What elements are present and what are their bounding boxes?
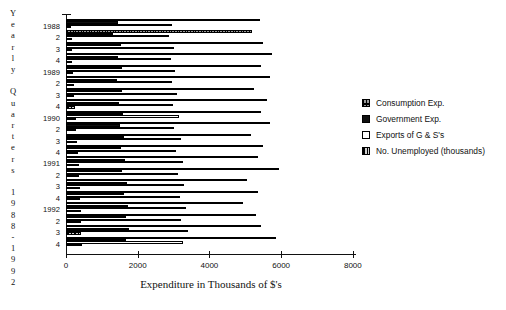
y-axis-tick-label: 3: [26, 138, 60, 146]
y-axis-title-letter: t: [2, 131, 24, 142]
bar-unemployed: [66, 38, 72, 40]
bar-unemployed: [66, 164, 79, 166]
bar-unemployed: [66, 118, 76, 120]
y-axis-tick-label: 1989: [26, 69, 60, 77]
y-axis-tick-label: 3: [26, 46, 60, 54]
bar-exports: [66, 127, 174, 129]
y-axis-title-letter: 2: [2, 277, 24, 288]
y-axis-title-letter: 8: [2, 210, 24, 221]
bar-exports: [66, 24, 172, 26]
bar-unemployed: [66, 49, 72, 51]
bar-chart: Yearly Quarters 1988-1992 19882341989234…: [0, 0, 506, 310]
x-axis-line: [66, 254, 356, 255]
bar-unemployed: [66, 244, 82, 246]
legend-swatch-exports-icon: [362, 131, 370, 139]
y-axis-tick-labels: 19882341989234199023419912341992234: [26, 19, 60, 251]
bar-group: [66, 53, 355, 64]
y-axis-title-letter: y: [2, 64, 24, 75]
bar-exports: [66, 241, 183, 243]
y-axis-tick-label: 1988: [26, 23, 60, 31]
y-axis-tick-label: 1990: [26, 115, 60, 123]
legend-swatch-consumption-icon: [362, 99, 370, 107]
y-axis-tick-label: 4: [26, 57, 60, 65]
bar-exports: [66, 150, 176, 152]
bar-group: [66, 168, 355, 179]
x-axis-tick: [281, 251, 282, 258]
legend-item-label: Government Exp.: [376, 114, 441, 124]
bar-exports: [66, 196, 180, 198]
y-axis-tick-label: 2: [26, 172, 60, 180]
bar-group: [66, 237, 355, 248]
bar-group: [66, 122, 355, 133]
y-axis-title-letter: 9: [2, 266, 24, 277]
y-axis-title-letter: Y: [2, 8, 24, 19]
bar-unemployed: [66, 152, 78, 154]
bar-exports: [66, 161, 183, 163]
bar-group: [66, 30, 355, 41]
y-axis-title-letter: 9: [2, 254, 24, 265]
legend-swatch-government-icon: [362, 115, 370, 123]
y-axis-title-letter: e: [2, 19, 24, 30]
bar-unemployed: [66, 84, 74, 86]
y-axis-tick-label: 2: [26, 34, 60, 42]
legend-item-label: No. Unemployed (thousands): [376, 146, 485, 156]
legend-item[interactable]: Consumption Exp.: [362, 95, 506, 111]
y-axis-tick-label: 2: [26, 80, 60, 88]
legend-item[interactable]: Government Exp.: [362, 111, 506, 127]
x-axis-tick-label: 6000: [272, 261, 290, 270]
x-axis-tick-label: 2000: [129, 261, 147, 270]
legend-item-label: Consumption Exp.: [376, 98, 444, 108]
y-axis-tick-label: 4: [26, 195, 60, 203]
bar-exports: [66, 219, 181, 221]
y-axis-title-letter: r: [2, 42, 24, 53]
y-axis-title-letter: a: [2, 30, 24, 41]
bar-exports: [66, 138, 181, 140]
y-axis-title-letter: s: [2, 165, 24, 176]
bar-group: [66, 202, 355, 213]
bar-unemployed: [66, 129, 76, 131]
bar-group: [66, 99, 355, 110]
y-axis-tick-label: 4: [26, 149, 60, 157]
bar-exports: [66, 230, 188, 232]
legend-swatch-unemployed-icon: [362, 147, 370, 155]
y-axis-title-letter: a: [2, 109, 24, 120]
y-axis-title-letter: e: [2, 142, 24, 153]
x-axis-tick: [138, 251, 139, 258]
bar-group: [66, 179, 355, 190]
legend-item-label: Exports of G & S's: [376, 130, 444, 140]
bar-group: [66, 225, 355, 236]
bar-exports: [66, 81, 172, 83]
bar-unemployed: [66, 106, 75, 108]
bar-unemployed: [66, 198, 80, 200]
y-axis-title-letter: [2, 75, 24, 86]
x-axis-tick: [353, 251, 354, 258]
bar-exports: [66, 115, 179, 117]
y-axis-tick-label: 2: [26, 126, 60, 134]
y-axis-title-letter: l: [2, 53, 24, 64]
legend-item[interactable]: Exports of G & S's: [362, 127, 506, 143]
bar-group: [66, 76, 355, 87]
y-axis-tick-label: 1992: [26, 206, 60, 214]
bar-group: [66, 145, 355, 156]
y-axis-top-cap: [62, 14, 71, 15]
y-axis-tick-label: 3: [26, 229, 60, 237]
y-axis-tick-label: 3: [26, 183, 60, 191]
legend-item[interactable]: No. Unemployed (thousands): [362, 143, 506, 159]
bar-group: [66, 214, 355, 225]
x-axis-tick-label: 4000: [201, 261, 219, 270]
plot-area: 02000400060008000 Expenditure in Thousan…: [66, 14, 355, 254]
bar-exports: [66, 93, 177, 95]
y-axis-title: Yearly Quarters 1988-1992: [2, 8, 24, 288]
legend: Consumption Exp.Government Exp.Exports o…: [362, 95, 506, 159]
y-axis-title-letter: Q: [2, 86, 24, 97]
bar-unemployed: [66, 232, 81, 234]
bar-group: [66, 191, 355, 202]
y-axis-title-letter: u: [2, 98, 24, 109]
bar-exports: [66, 173, 178, 175]
bar-exports: [66, 70, 175, 72]
y-axis-tick-label: 3: [26, 92, 60, 100]
bar-exports: [66, 104, 173, 106]
bar-exports: [66, 58, 171, 60]
y-axis-title-letter: 9: [2, 198, 24, 209]
bar-unemployed: [66, 210, 81, 212]
